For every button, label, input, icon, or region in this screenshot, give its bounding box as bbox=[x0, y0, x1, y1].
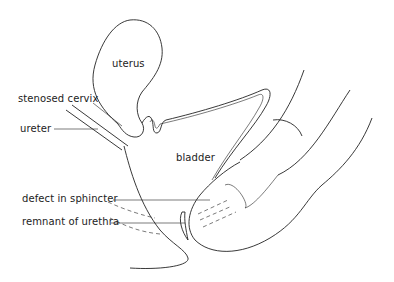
inner-tube bbox=[225, 175, 278, 208]
outer-tube-top bbox=[240, 70, 304, 160]
label-uterus: uterus bbox=[112, 58, 145, 69]
outer-tube-bottom bbox=[189, 118, 372, 251]
ureter-line-1 bbox=[72, 105, 128, 146]
anatomy-drawing bbox=[0, 0, 394, 282]
sphincter-defect-line-2 bbox=[200, 206, 232, 220]
diagram-canvas: uterus stenosed cervix ureter bladder de… bbox=[0, 0, 394, 282]
sphincter-defect-line-3 bbox=[203, 212, 236, 227]
urethra-remnant bbox=[180, 212, 188, 240]
leader-stenosed-cervix bbox=[93, 103, 122, 126]
posterior-wall bbox=[124, 146, 188, 269]
ureter-line-2 bbox=[66, 110, 122, 150]
catheter-cap bbox=[273, 120, 302, 136]
bladder-fold-outer bbox=[142, 89, 270, 178]
label-remnant-of-urethra: remnant of urethra bbox=[22, 216, 119, 227]
sphincter-defect-line-1 bbox=[198, 200, 228, 214]
middle-tube-line bbox=[278, 90, 350, 175]
label-stenosed-cervix: stenosed cervix bbox=[18, 93, 99, 104]
label-defect-in-sphincter: defect in sphincter bbox=[22, 193, 118, 204]
bladder-fold-inner bbox=[150, 94, 263, 180]
label-bladder: bladder bbox=[176, 152, 215, 163]
label-ureter: ureter bbox=[20, 123, 51, 134]
